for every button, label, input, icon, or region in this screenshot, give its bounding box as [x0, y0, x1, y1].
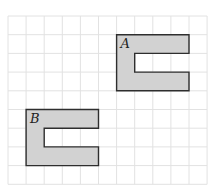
grid-diagram: A B [0, 0, 215, 193]
shape-a-label: A [120, 36, 130, 51]
shape-b-label: B [29, 111, 40, 126]
